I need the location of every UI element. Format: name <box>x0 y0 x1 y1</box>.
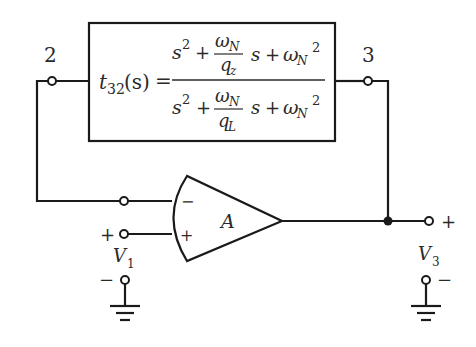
v1-plus-sign: + <box>100 224 115 245</box>
v3-label: V <box>418 243 433 264</box>
svg-text:=: = <box>155 69 172 93</box>
ground-icon <box>110 284 140 320</box>
equation-denominator: s 2 + ω N q L s + ω N 2 <box>172 85 320 134</box>
svg-text:z: z <box>229 64 237 78</box>
svg-text:2: 2 <box>182 37 190 52</box>
svg-text:N: N <box>228 95 240 109</box>
v1-minus-sign: − <box>99 269 114 290</box>
terminal-inv-input <box>120 197 128 205</box>
svg-text:s: s <box>251 44 260 65</box>
svg-text:32: 32 <box>107 81 125 97</box>
svg-text:N: N <box>296 107 308 121</box>
svg-text:s: s <box>172 41 182 63</box>
opamp-gain-label: A <box>219 210 235 232</box>
svg-text:L: L <box>227 120 236 134</box>
svg-text:ω: ω <box>215 85 230 106</box>
svg-text:2: 2 <box>312 40 320 55</box>
terminal-node2 <box>48 77 56 85</box>
svg-text:s: s <box>251 97 260 118</box>
terminal-node3 <box>364 77 372 85</box>
node2-label: 2 <box>44 43 57 67</box>
v1-subscript: 1 <box>127 257 135 271</box>
v1-label: V <box>113 245 128 266</box>
terminal-v1-plus <box>120 230 128 238</box>
terminal-v1-minus <box>121 276 129 284</box>
svg-text:N: N <box>296 54 308 68</box>
svg-text:+: + <box>265 44 280 65</box>
opamp-inv-sign: − <box>181 192 194 211</box>
equation-numerator: s 2 + ω N q z s + ω N 2 <box>172 30 320 78</box>
node3-label: 3 <box>362 43 375 67</box>
v3-minus-sign: − <box>437 269 452 290</box>
wire-node3-down <box>372 81 388 221</box>
opamp-noninv-sign: + <box>180 226 193 245</box>
svg-text:ω: ω <box>215 30 230 51</box>
v3-subscript: 3 <box>432 255 440 269</box>
svg-text:(s): (s) <box>124 70 150 94</box>
terminal-v3-plus <box>425 217 433 225</box>
svg-text:+: + <box>265 97 280 118</box>
svg-text:2: 2 <box>182 92 190 107</box>
v3-plus-sign: + <box>441 211 456 232</box>
svg-text:N: N <box>228 40 240 54</box>
svg-text:+: + <box>195 42 210 63</box>
junction-dot <box>384 217 393 226</box>
svg-text:s: s <box>172 96 182 118</box>
svg-text:2: 2 <box>312 93 320 108</box>
svg-text:+: + <box>196 97 211 118</box>
terminal-v3-minus <box>422 276 430 284</box>
equation-lhs: t 32 (s) = <box>99 69 172 97</box>
circuit-diagram: 2 3 + V 1 − − + A + V 3 − t 32 (s) <box>0 0 476 347</box>
